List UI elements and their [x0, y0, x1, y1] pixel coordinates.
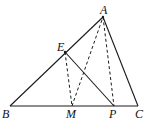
segment-em-dashed: [65, 52, 72, 106]
label-e: E: [56, 40, 65, 54]
segment-ab: [10, 17, 103, 106]
segment-ma-dashed: [72, 17, 103, 106]
label-m: M: [65, 107, 77, 121]
label-a: A: [99, 3, 108, 17]
triangle-diagram: A E B M P C: [0, 0, 150, 126]
segment-ep: [65, 52, 114, 106]
label-b: B: [2, 107, 10, 121]
label-c: C: [135, 107, 144, 121]
label-p: P: [108, 107, 117, 121]
